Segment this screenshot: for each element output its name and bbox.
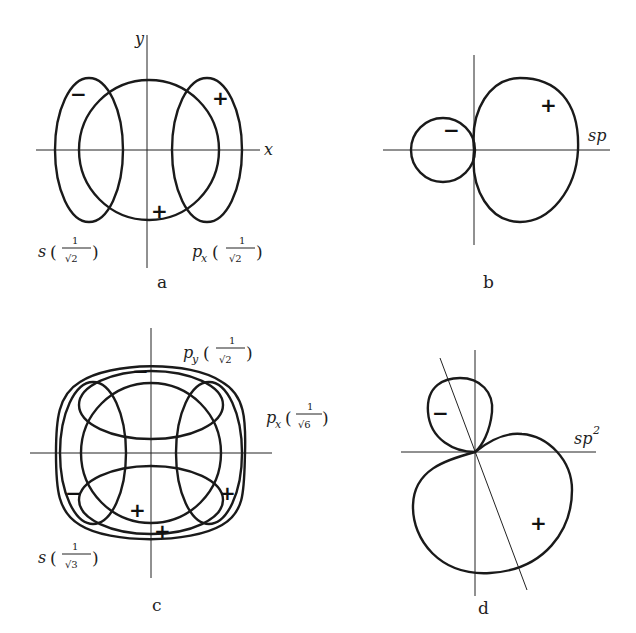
label-px-coefficient: p x ( 1 √2 ) xyxy=(192,235,263,265)
plus-sign: + xyxy=(219,481,236,505)
svg-text:√2: √2 xyxy=(219,354,232,365)
svg-text:x: x xyxy=(201,252,208,265)
label-py-coefficient: p y ( 1 √2 ) xyxy=(183,335,253,366)
plus-lobe xyxy=(413,434,572,573)
svg-text:): ) xyxy=(92,242,99,262)
svg-text:y: y xyxy=(191,353,199,366)
minus-sign: − xyxy=(443,118,460,142)
svg-text:1: 1 xyxy=(72,541,78,552)
panel-a: y x − + + s ( 1 √2 ) p x ( 1 √2 ) a xyxy=(36,29,273,292)
plus-sign: + xyxy=(151,199,168,223)
minus-sign: − xyxy=(132,359,149,383)
minus-sign: − xyxy=(70,82,87,106)
hybrid-label-sp2: sp 2 xyxy=(574,424,600,448)
svg-text:√2: √2 xyxy=(65,253,78,264)
x-axis-label: x xyxy=(264,140,273,159)
hybrid-orbital-diagram: y x − + + s ( 1 √2 ) p x ( 1 √2 ) a xyxy=(0,0,636,633)
svg-text:√6: √6 xyxy=(298,419,311,430)
svg-text:(: ( xyxy=(203,343,210,363)
svg-text:s: s xyxy=(38,548,46,567)
svg-text:1: 1 xyxy=(229,335,235,346)
plus-sign: + xyxy=(540,93,557,117)
svg-text:(: ( xyxy=(285,408,292,428)
plus-sign: + xyxy=(154,519,171,543)
hybrid-label-sp: sp xyxy=(588,126,606,145)
panel-caption-c: c xyxy=(152,595,162,615)
svg-text:(: ( xyxy=(50,548,57,568)
hybrid-direction-axis xyxy=(440,358,527,590)
label-s-coefficient: s ( 1 √3 ) xyxy=(38,541,99,570)
svg-text:): ) xyxy=(92,548,99,568)
svg-text:x: x xyxy=(275,418,282,431)
panel-c: − − + + + p y ( 1 √2 ) p x ( 1 √6 ) s ( … xyxy=(30,328,329,615)
svg-text:1: 1 xyxy=(72,235,78,246)
plus-sign: + xyxy=(530,511,547,535)
panel-d: − + sp 2 d xyxy=(401,350,600,618)
svg-text:(: ( xyxy=(50,242,57,262)
minus-sign: − xyxy=(65,481,82,505)
svg-text:√2: √2 xyxy=(229,253,242,264)
plus-sign: + xyxy=(212,86,229,110)
y-axis-label: y xyxy=(134,29,145,48)
label-s-coefficient: s ( 1 √2 ) xyxy=(38,235,99,264)
svg-text:1: 1 xyxy=(239,235,245,246)
plus-sign: + xyxy=(129,498,146,522)
svg-text:√3: √3 xyxy=(65,559,78,570)
label-px-coefficient: p x ( 1 √6 ) xyxy=(266,401,329,431)
panel-caption-a: a xyxy=(157,272,167,292)
svg-text:1: 1 xyxy=(307,401,313,412)
svg-text:): ) xyxy=(322,408,329,428)
panel-caption-d: d xyxy=(478,598,489,618)
panel-caption-b: b xyxy=(483,272,494,292)
minus-sign: − xyxy=(432,401,449,425)
svg-text:): ) xyxy=(256,242,263,262)
svg-text:sp: sp xyxy=(574,429,592,448)
svg-text:(: ( xyxy=(212,242,219,262)
panel-b: − + sp b xyxy=(383,55,610,292)
svg-text:): ) xyxy=(246,343,253,363)
svg-text:2: 2 xyxy=(592,424,600,437)
svg-text:s: s xyxy=(38,242,46,261)
